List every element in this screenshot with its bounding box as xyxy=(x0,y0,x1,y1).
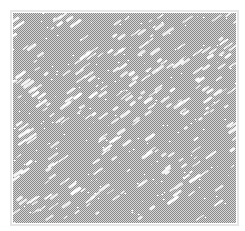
streak xyxy=(220,38,222,40)
speckle xyxy=(88,174,89,175)
speckle xyxy=(135,78,137,79)
speckle xyxy=(36,150,37,151)
speckle xyxy=(14,128,16,129)
speckle xyxy=(80,39,82,40)
speckle xyxy=(172,64,174,65)
speckle xyxy=(91,180,92,181)
speckle xyxy=(155,29,156,30)
speckle xyxy=(51,79,53,80)
speckle xyxy=(127,60,129,61)
speckle xyxy=(47,144,48,145)
streak xyxy=(142,92,144,94)
speckle xyxy=(183,177,185,178)
streak xyxy=(209,55,213,58)
speckle xyxy=(108,125,109,126)
speckle xyxy=(130,47,131,48)
texture-image xyxy=(0,0,245,231)
speckle xyxy=(104,171,105,172)
speckle xyxy=(136,117,137,118)
speckle xyxy=(151,164,152,165)
speckle xyxy=(161,22,163,23)
speckle xyxy=(102,82,103,83)
speckle xyxy=(177,132,179,133)
speckle xyxy=(162,125,164,126)
speckle xyxy=(118,62,120,63)
streak xyxy=(190,172,192,173)
speckle xyxy=(119,24,121,25)
speckle xyxy=(28,75,29,76)
speckle xyxy=(42,13,44,14)
speckle xyxy=(152,179,154,180)
speckle xyxy=(89,108,91,109)
streak xyxy=(28,201,30,203)
speckle xyxy=(199,179,201,180)
speckle xyxy=(204,198,206,199)
speckle xyxy=(211,167,213,168)
speckle xyxy=(199,161,200,162)
speckle xyxy=(147,143,148,144)
streak xyxy=(206,108,208,109)
speckle xyxy=(164,98,166,99)
speckle xyxy=(213,98,214,99)
speckle xyxy=(161,181,163,182)
speckle xyxy=(184,172,186,173)
speckle xyxy=(98,78,100,79)
speckle xyxy=(35,161,37,162)
streak xyxy=(199,118,201,119)
streak xyxy=(45,73,47,75)
speckle xyxy=(68,64,69,65)
speckle xyxy=(79,87,80,88)
speckle xyxy=(154,103,156,104)
speckle xyxy=(224,119,226,120)
speckle xyxy=(138,214,140,215)
speckle xyxy=(190,99,191,100)
speckle xyxy=(156,70,158,71)
speckle xyxy=(39,101,40,102)
speckle xyxy=(96,64,97,65)
speckle xyxy=(59,160,60,161)
speckle xyxy=(185,56,186,57)
speckle xyxy=(230,68,232,69)
speckle xyxy=(119,80,120,81)
speckle xyxy=(128,16,129,17)
speckle xyxy=(56,148,57,149)
streak xyxy=(130,72,133,74)
speckle xyxy=(157,195,159,196)
speckle xyxy=(52,66,53,67)
speckle xyxy=(156,183,157,184)
speckle xyxy=(55,144,56,145)
speckle xyxy=(43,121,44,122)
speckle xyxy=(169,141,171,142)
speckle xyxy=(72,55,74,56)
speckle xyxy=(147,71,149,72)
speckle xyxy=(123,54,125,55)
speckle xyxy=(180,113,182,114)
speckle xyxy=(47,27,48,28)
speckle xyxy=(25,102,26,103)
speckle xyxy=(63,134,65,135)
speckle xyxy=(217,45,218,46)
noise-texture xyxy=(0,0,245,231)
speckle xyxy=(41,21,42,22)
speckle xyxy=(13,80,15,81)
speckle xyxy=(137,138,139,139)
speckle xyxy=(169,33,171,34)
speckle xyxy=(58,199,59,200)
speckle xyxy=(126,90,128,91)
speckle xyxy=(52,122,54,123)
speckle xyxy=(156,161,158,162)
speckle xyxy=(81,93,82,94)
speckle xyxy=(221,55,223,56)
speckle xyxy=(29,212,31,213)
speckle xyxy=(105,99,107,100)
speckle xyxy=(55,96,56,97)
streak xyxy=(196,79,198,81)
speckle xyxy=(115,115,117,116)
speckle xyxy=(38,196,40,197)
speckle xyxy=(181,73,182,74)
speckle xyxy=(24,164,25,165)
speckle xyxy=(129,151,130,152)
speckle xyxy=(167,125,168,126)
speckle xyxy=(167,18,168,19)
speckle xyxy=(222,31,223,32)
